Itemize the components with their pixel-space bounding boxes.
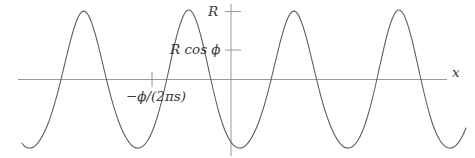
waveform-figure: R R cos ϕ −ϕ/(2πs) x (0, 0, 475, 158)
plot-canvas (0, 0, 475, 158)
label-x-axis: x (452, 66, 460, 80)
label-amplitude: R (208, 5, 218, 19)
label-amplitude-at-zero: R cos ϕ (170, 43, 221, 57)
label-phase-offset: −ϕ/(2πs) (126, 90, 186, 104)
cosine-wave-curve (22, 10, 466, 148)
